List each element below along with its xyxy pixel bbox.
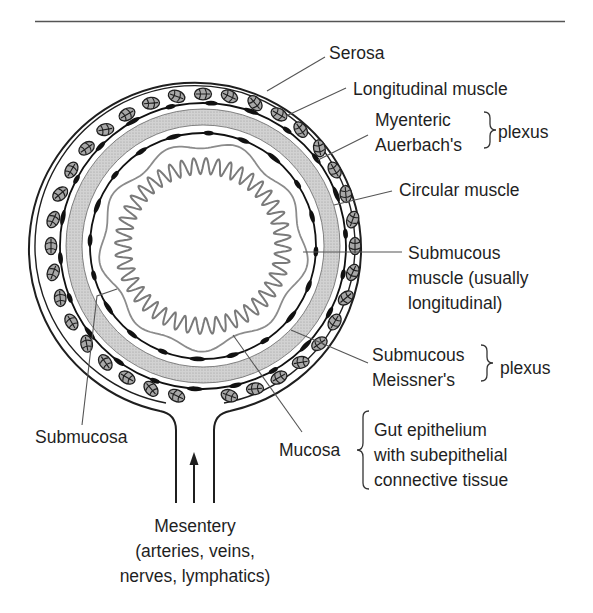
myenteric-ganglia: [44, 87, 361, 404]
circular-muscle-inner-edge: [82, 125, 324, 367]
leader-longitudinal-muscle: [286, 88, 346, 116]
plexus-node: [304, 279, 313, 293]
plexus-node: [92, 197, 102, 214]
ganglion-cell: [142, 97, 160, 110]
gut-epithelium-villi: [115, 158, 291, 334]
plexus-node: [236, 136, 250, 145]
plexus-node: [102, 300, 115, 316]
plexus-node: [58, 252, 64, 265]
ganglion-cell: [45, 238, 57, 255]
plexus-node: [66, 292, 74, 303]
ganglion-cell: [166, 387, 186, 405]
arrow-up-icon: [190, 452, 199, 503]
ganglion-cell: [219, 387, 239, 404]
plexus-node: [189, 356, 205, 362]
label-myenteric: Myenteric: [375, 110, 451, 130]
label-meissners: Meissner's: [372, 370, 455, 390]
leader-serosa: [267, 57, 325, 91]
label-submucous-muscle-1: Submucous: [408, 243, 501, 263]
plexus-node: [203, 130, 213, 135]
brace-submucous: [481, 345, 493, 381]
label-auerbachs: Auerbach's: [375, 135, 462, 155]
ganglion-cell: [195, 88, 212, 100]
plexus-node: [126, 328, 139, 340]
label-mucosa-desc-1: Gut epithelium: [374, 420, 487, 440]
label-submucous-muscle-3: longitudinal): [408, 293, 502, 313]
ganglion-cell: [96, 122, 115, 136]
plexus-node: [157, 348, 168, 356]
label-mesentery: Mesentery: [154, 516, 236, 536]
gut-wall-diagram: Serosa Longitudinal muscle Myenteric Aue…: [0, 0, 593, 613]
label-submucous-plexus: plexus: [500, 358, 551, 378]
plexus-node: [205, 100, 218, 105]
plexus-node: [187, 386, 203, 392]
ganglion-cell: [167, 88, 187, 105]
plexus-node: [165, 133, 182, 142]
ganglion-cell: [246, 382, 264, 395]
label-mesentery-2: (arteries, veins,: [135, 541, 255, 561]
label-submucosa: Submucosa: [35, 427, 128, 447]
brace-myenteric: [484, 112, 496, 148]
ganglion-cell: [291, 355, 310, 369]
plexus-node: [284, 309, 298, 324]
plexus-node: [229, 381, 243, 389]
plexus-node: [90, 270, 97, 281]
label-mucosa: Mucosa: [279, 440, 341, 460]
ganglion-cell: [54, 289, 67, 307]
label-longitudinal-muscle: Longitudinal muscle: [353, 79, 508, 99]
plexus-node: [340, 269, 347, 280]
circular-muscle-band: [74, 117, 332, 375]
plexus-node: [308, 210, 316, 224]
label-circular-muscle: Circular muscle: [399, 180, 520, 200]
label-mucosa-desc-3: connective tissue: [374, 470, 508, 490]
plexus-node: [87, 234, 92, 247]
label-mucosa-desc-2: with subepithelial: [373, 445, 507, 465]
label-serosa: Serosa: [329, 43, 385, 63]
ganglion-cell: [45, 262, 62, 282]
label-submucous-muscle-2: muscle (usually: [408, 268, 529, 288]
plexus-node: [226, 351, 240, 359]
brace-mucosa: [357, 411, 369, 489]
plexus-node: [266, 151, 281, 165]
label-mesentery-3: nerves, lymphatics): [120, 566, 271, 586]
plexus-node: [343, 229, 349, 239]
label-myenteric-plexus: plexus: [498, 122, 549, 142]
plexus-node: [134, 146, 148, 157]
label-submucous-plexus-1: Submucous: [372, 345, 465, 365]
ganglion-cell: [44, 209, 62, 229]
ganglion-cell: [219, 87, 239, 105]
plexus-node: [165, 103, 176, 110]
